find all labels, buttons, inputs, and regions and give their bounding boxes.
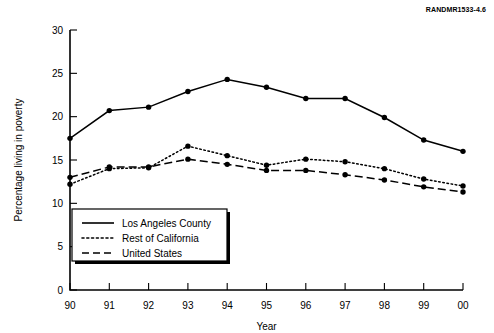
data-point-marker	[421, 176, 426, 181]
series-solid	[67, 77, 465, 154]
data-point-marker	[303, 96, 308, 101]
data-point-marker	[342, 96, 347, 101]
series-dashed	[67, 156, 465, 194]
data-point-marker	[67, 182, 72, 187]
y-tick-label: 25	[52, 68, 64, 79]
data-point-marker	[107, 108, 112, 113]
poverty-line-chart-figure: RANDMR1533-4.6 051015202530 909192939495…	[0, 0, 494, 333]
x-tick-label: 97	[340, 300, 352, 311]
y-tick-label: 5	[57, 241, 63, 252]
x-axis-ticks: 9091929394959697989900	[64, 283, 469, 311]
x-axis-title: Year	[256, 321, 277, 332]
data-point-marker	[67, 175, 72, 180]
data-point-marker	[225, 153, 230, 158]
y-tick-label: 0	[57, 285, 63, 296]
data-point-marker	[421, 137, 426, 142]
data-point-marker	[107, 164, 112, 169]
data-point-marker	[264, 168, 269, 173]
x-tick-label: 91	[104, 300, 116, 311]
y-tick-label: 15	[52, 155, 64, 166]
legend-label: United States	[122, 248, 182, 259]
y-axis-title: Percentage living in poverty	[13, 99, 24, 222]
legend-label: Los Angeles County	[122, 218, 211, 229]
data-point-marker	[185, 143, 190, 148]
y-tick-label: 20	[52, 111, 64, 122]
x-tick-label: 94	[222, 300, 234, 311]
data-point-marker	[225, 162, 230, 167]
y-tick-label: 10	[52, 198, 64, 209]
chart-legend: Los Angeles CountyRest of CaliforniaUnit…	[72, 209, 230, 264]
series-dotted	[67, 143, 465, 188]
source-identifier-label: RANDMR1533-4.6	[426, 6, 486, 13]
x-tick-label: 93	[182, 300, 194, 311]
x-tick-label: 92	[143, 300, 155, 311]
data-point-marker	[264, 85, 269, 90]
data-point-marker	[225, 77, 230, 82]
x-tick-label: 90	[64, 300, 76, 311]
data-point-marker	[303, 156, 308, 161]
data-point-marker	[460, 183, 465, 188]
data-point-marker	[460, 189, 465, 194]
x-tick-label: 95	[261, 300, 273, 311]
data-point-marker	[303, 168, 308, 173]
data-point-marker	[382, 177, 387, 182]
data-point-marker	[185, 156, 190, 161]
data-point-marker	[146, 104, 151, 109]
chart-plot-area: 051015202530 9091929394959697989900 Los …	[0, 0, 494, 333]
y-tick-label: 30	[52, 25, 64, 36]
x-tick-label: 96	[300, 300, 312, 311]
x-tick-label: 00	[457, 300, 469, 311]
data-point-marker	[382, 166, 387, 171]
data-point-marker	[146, 164, 151, 169]
x-tick-label: 99	[418, 300, 430, 311]
data-series-group	[67, 77, 465, 195]
data-point-marker	[421, 184, 426, 189]
data-point-marker	[342, 159, 347, 164]
data-point-marker	[67, 136, 72, 141]
data-point-marker	[460, 149, 465, 154]
data-point-marker	[382, 115, 387, 120]
data-point-marker	[264, 163, 269, 168]
legend-label: Rest of California	[122, 233, 199, 244]
data-point-marker	[342, 172, 347, 177]
x-tick-label: 98	[379, 300, 391, 311]
data-point-marker	[185, 89, 190, 94]
